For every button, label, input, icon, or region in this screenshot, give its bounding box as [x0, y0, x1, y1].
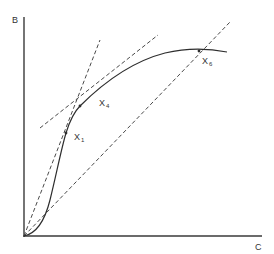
- ray-through-x6: [24, 22, 230, 236]
- label-x6-subscript: 6: [209, 61, 213, 67]
- label-x6-name: X: [202, 56, 208, 66]
- response-curve: [24, 49, 227, 236]
- diagram-figure: B C X 1 X 4 X 6: [0, 0, 274, 254]
- label-x4: X 4: [99, 98, 110, 109]
- point-x4-marker: [79, 105, 82, 108]
- point-x1-marker: [65, 132, 68, 135]
- label-x6: X 6: [202, 56, 213, 67]
- tangent-line-at-x4: [40, 35, 158, 128]
- label-x1: X 1: [74, 132, 85, 143]
- label-x4-subscript: 4: [106, 103, 110, 109]
- label-x1-name: X: [74, 132, 80, 142]
- point-x6-marker: [198, 50, 201, 53]
- y-axis-label: B: [12, 15, 18, 25]
- label-x1-subscript: 1: [81, 137, 85, 143]
- x-axis-label: C: [255, 242, 262, 252]
- steep-ray-through-x1: [24, 40, 100, 236]
- label-x4-name: X: [99, 98, 105, 108]
- diagram-canvas: B C X 1 X 4 X 6: [0, 0, 274, 254]
